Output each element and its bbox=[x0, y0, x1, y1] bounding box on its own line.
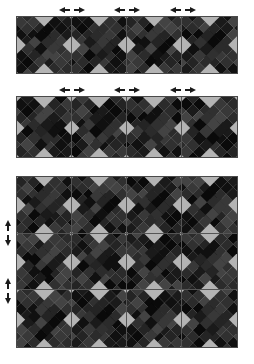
saltire-patchwork-x-icon bbox=[72, 17, 126, 73]
arrow-up-icon bbox=[5, 220, 11, 226]
arrow-left-icon bbox=[170, 87, 176, 93]
saltire-patchwork-x-icon bbox=[72, 97, 126, 157]
quilt-block bbox=[17, 97, 72, 157]
quilt-block bbox=[72, 17, 127, 73]
panel-bottom bbox=[16, 176, 238, 348]
block-grid bbox=[17, 17, 237, 73]
arrow-right-icon bbox=[134, 7, 140, 13]
arrow-down-icon bbox=[5, 240, 11, 246]
panel-middle bbox=[16, 96, 238, 158]
quilt-block bbox=[17, 290, 72, 347]
quilt-block bbox=[127, 97, 182, 157]
quilt-block bbox=[17, 177, 72, 234]
alignment-arrow-pair-vertical bbox=[3, 220, 12, 246]
arrow-left-icon bbox=[114, 87, 120, 93]
saltire-patchwork-x-icon bbox=[17, 177, 71, 233]
saltire-patchwork-x-icon bbox=[127, 97, 181, 157]
quilt-block bbox=[127, 177, 182, 234]
quilt-block bbox=[182, 290, 237, 347]
saltire-patchwork-x-icon bbox=[17, 234, 71, 290]
quilt-block bbox=[72, 177, 127, 234]
panel-top bbox=[16, 16, 238, 74]
saltire-patchwork-x-icon bbox=[72, 290, 126, 347]
quilt-block bbox=[127, 290, 182, 347]
arrow-left-icon bbox=[170, 7, 176, 13]
quilt-block bbox=[182, 177, 237, 234]
quilt-block bbox=[72, 290, 127, 347]
alignment-arrow-pair-horizontal bbox=[170, 5, 196, 14]
alignment-arrow-pair-horizontal bbox=[59, 85, 85, 94]
arrow-left-icon bbox=[59, 7, 65, 13]
saltire-patchwork-x-icon bbox=[72, 234, 126, 290]
saltire-patchwork-x-icon bbox=[182, 290, 237, 347]
quilt-block bbox=[127, 234, 182, 291]
saltire-patchwork-x-icon bbox=[127, 234, 181, 290]
saltire-patchwork-x-icon bbox=[17, 17, 71, 73]
quilt-block bbox=[182, 97, 237, 157]
arrow-down-icon bbox=[5, 298, 11, 304]
quilt-block bbox=[17, 17, 72, 73]
figure-stage bbox=[0, 0, 254, 364]
alignment-arrow-pair-vertical bbox=[3, 278, 12, 304]
saltire-patchwork-x-icon bbox=[182, 97, 237, 157]
quilt-block bbox=[182, 17, 237, 73]
block-grid bbox=[17, 97, 237, 157]
saltire-patchwork-x-icon bbox=[17, 97, 71, 157]
arrow-right-icon bbox=[190, 87, 196, 93]
block-grid bbox=[17, 177, 237, 347]
quilt-block bbox=[17, 234, 72, 291]
alignment-arrow-pair-horizontal bbox=[114, 5, 140, 14]
alignment-arrow-pair-horizontal bbox=[114, 85, 140, 94]
saltire-patchwork-x-icon bbox=[127, 177, 181, 233]
arrow-right-icon bbox=[79, 7, 85, 13]
saltire-patchwork-x-icon bbox=[182, 234, 237, 290]
arrow-right-icon bbox=[190, 7, 196, 13]
alignment-arrow-pair-horizontal bbox=[170, 85, 196, 94]
arrow-left-icon bbox=[114, 7, 120, 13]
saltire-patchwork-x-icon bbox=[127, 17, 181, 73]
saltire-patchwork-x-icon bbox=[17, 290, 71, 347]
saltire-patchwork-x-icon bbox=[72, 177, 126, 233]
arrow-right-icon bbox=[134, 87, 140, 93]
saltire-patchwork-x-icon bbox=[127, 290, 181, 347]
saltire-patchwork-x-icon bbox=[182, 17, 237, 73]
quilt-block bbox=[72, 97, 127, 157]
alignment-arrow-pair-horizontal bbox=[59, 5, 85, 14]
saltire-patchwork-x-icon bbox=[182, 177, 237, 233]
quilt-block bbox=[127, 17, 182, 73]
arrow-left-icon bbox=[59, 87, 65, 93]
arrow-right-icon bbox=[79, 87, 85, 93]
quilt-block bbox=[182, 234, 237, 291]
quilt-block bbox=[72, 234, 127, 291]
arrow-up-icon bbox=[5, 278, 11, 284]
